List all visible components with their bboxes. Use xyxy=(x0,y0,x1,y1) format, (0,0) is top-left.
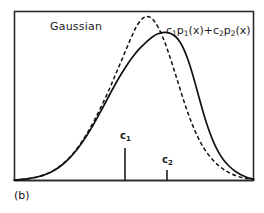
tick-label-c1-subscript: 1 xyxy=(126,135,131,143)
mixture-p1-subscript: 1 xyxy=(184,29,189,38)
figure-panel: Gaussian c1p1(x)+c2p2(x) c1 c2 (b) xyxy=(0,0,264,213)
mixture-c1-subscript: 1 xyxy=(172,29,177,38)
mixture-c2-subscript: 2 xyxy=(219,29,224,38)
tick-label-c1: c1 xyxy=(120,131,131,141)
mixture-arg-2: (x) xyxy=(236,24,251,37)
gaussian-curve-label: Gaussian xyxy=(50,21,102,32)
panel-caption: (b) xyxy=(14,190,30,201)
mixture-p1: p xyxy=(177,24,184,37)
mixture-p2: p xyxy=(224,24,231,37)
tick-label-c2: c2 xyxy=(162,155,173,165)
mixture-p2-subscript: 2 xyxy=(231,29,236,38)
mixture-curve-label: c1p1(x)+c2p2(x) xyxy=(166,25,251,36)
mixture-arg-1: (x)+ xyxy=(189,24,213,37)
tick-label-c2-subscript: 2 xyxy=(168,159,173,167)
